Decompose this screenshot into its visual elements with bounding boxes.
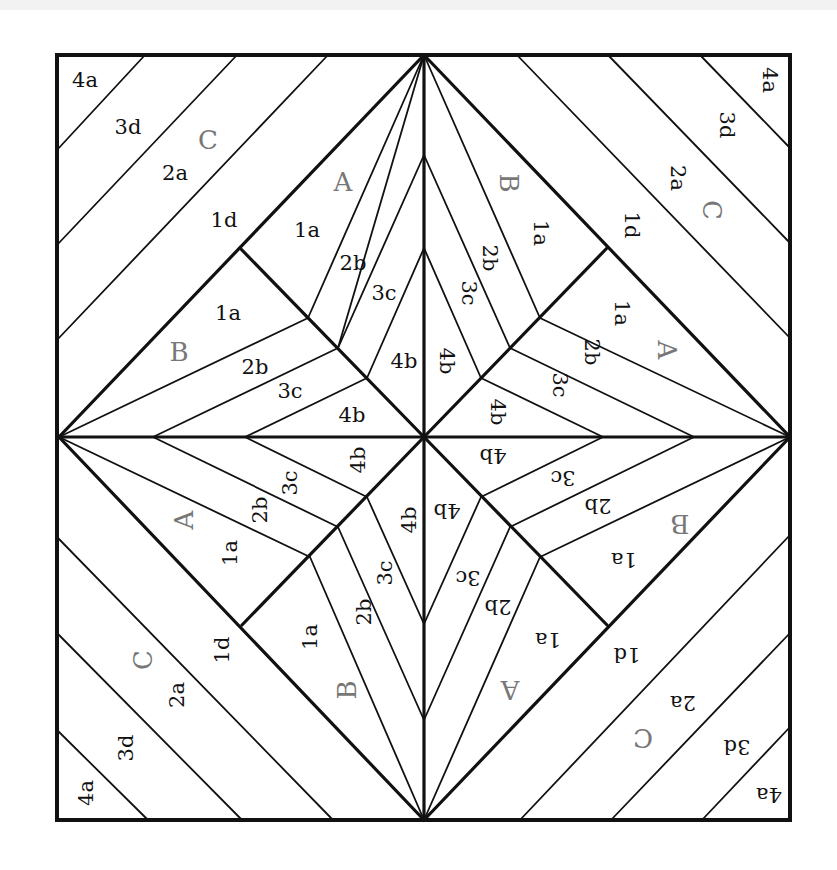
piece-label-4a: 4a <box>756 783 782 807</box>
piece-label-3d: 3d <box>115 115 142 139</box>
piece-label-4b: 4b <box>339 403 366 427</box>
piece-label-1d: 1d <box>211 208 238 232</box>
section-label-c: C <box>697 200 727 220</box>
section-label-c: C <box>128 650 158 670</box>
piece-label-4a: 4a <box>72 68 98 92</box>
quadrant-top-left: 4a3dC2a1dA1a2b3c4b1aB2b3c4b <box>72 68 417 427</box>
piece-label-2b: 2b <box>352 599 376 626</box>
piece-label-4b: 4b <box>346 447 370 474</box>
piece-label-1a: 1a <box>294 218 320 242</box>
piece-label-4b: 4b <box>397 507 421 534</box>
piece-label-3c: 3c <box>371 281 396 305</box>
piece-label-3c: 3c <box>277 379 302 403</box>
section-label-b: B <box>494 173 524 192</box>
piece-label-4b: 4b <box>434 499 461 523</box>
piece-label-2b: 2b <box>248 497 272 524</box>
piece-label-2b: 2b <box>485 595 512 619</box>
quilt-pattern-diagram: 4a3dC2a1dA1a2b3c4b1aB2b3c4b4a3d2aC1dB1a2… <box>0 0 837 870</box>
section-label-a: A <box>652 340 682 361</box>
piece-label-2a: 2a <box>666 165 690 191</box>
piece-label-2a: 2a <box>162 161 188 185</box>
piece-label-2b: 2b <box>580 339 604 366</box>
piece-label-1d: 1d <box>210 637 234 664</box>
piece-label-1a: 1a <box>535 628 561 652</box>
piece-label-3d: 3d <box>715 112 739 139</box>
piece-label-1a: 1a <box>218 540 242 566</box>
piece-label-3d: 3d <box>114 735 138 762</box>
section-label-b: B <box>169 337 188 367</box>
section-label-b: B <box>670 509 689 539</box>
piece-label-1a: 1a <box>610 300 634 326</box>
piece-label-2b: 2b <box>242 355 269 379</box>
piece-label-4b: 4b <box>486 399 510 426</box>
piece-label-4b: 4b <box>391 349 418 373</box>
piece-label-4b: 4b <box>435 348 459 375</box>
piece-label-3d: 3d <box>724 735 751 759</box>
piece-label-3c: 3c <box>550 466 575 490</box>
section-label-c: C <box>198 125 218 155</box>
section-label-a: A <box>169 509 199 530</box>
piece-label-4a: 4a <box>758 67 782 93</box>
piece-label-3c: 3c <box>278 470 302 495</box>
piece-label-2b: 2b <box>585 494 612 518</box>
piece-label-4b: 4b <box>480 444 507 468</box>
piece-label-2b: 2b <box>478 245 502 272</box>
piece-label-1d: 1d <box>620 212 644 239</box>
piece-label-2a: 2a <box>165 682 189 708</box>
piece-label-3c: 3c <box>548 372 572 397</box>
piece-label-1a: 1a <box>215 301 241 325</box>
piece-label-2a: 2a <box>670 691 696 715</box>
piece-label-3c: 3c <box>457 280 481 305</box>
piece-label-3c: 3c <box>455 566 480 590</box>
piece-label-1a: 1a <box>611 548 637 572</box>
section-label-b: B <box>332 680 362 699</box>
piece-label-4a: 4a <box>74 780 98 806</box>
piece-label-1a: 1a <box>298 624 322 650</box>
piece-label-1d: 1d <box>614 643 641 667</box>
piece-label-2b: 2b <box>340 251 367 275</box>
section-label-a: A <box>333 167 354 197</box>
section-label-c: C <box>633 723 653 753</box>
piece-label-3c: 3c <box>373 560 397 585</box>
section-label-a: A <box>499 675 520 705</box>
piece-label-1a: 1a <box>529 220 553 246</box>
